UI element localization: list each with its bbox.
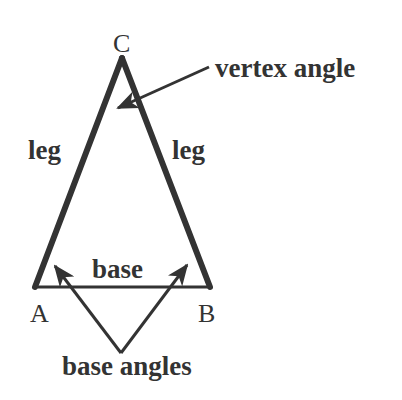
leg-right-line [122, 58, 210, 287]
leg-right-label: leg [172, 135, 205, 165]
vertex-label-c: C [113, 29, 130, 58]
base-label: base [92, 254, 143, 284]
vertex-label-a: A [30, 299, 49, 328]
isosceles-triangle-diagram: C A B vertex angle leg leg base base ang… [0, 0, 402, 400]
leg-left-line [35, 58, 122, 287]
vertex-label-b: B [198, 299, 215, 328]
base-angles-label: base angles [62, 351, 192, 381]
leg-left-label: leg [28, 135, 61, 165]
vertex-angle-label: vertex angle [215, 53, 355, 83]
